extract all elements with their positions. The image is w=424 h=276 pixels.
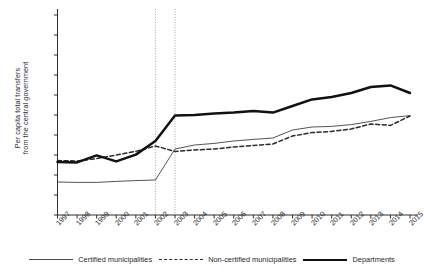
legend-item-1[interactable]: Non-certified municipalities [159,255,296,264]
legend-item-0[interactable]: Certified municipalities [29,255,152,264]
chart-legend: Certified municipalitiesNon-certified mu… [0,255,424,264]
legend-label: Departments [352,255,394,264]
series-line-1 [58,116,411,161]
legend-swatch-dashed-icon [159,259,203,260]
series-line-0 [58,116,411,183]
legend-swatch-thin-solid-icon [29,259,73,260]
legend-item-2[interactable]: Departments [303,255,394,264]
plot-area [0,0,424,276]
legend-swatch-thick-solid-icon [303,259,347,261]
legend-label: Non-certified municipalities [208,255,296,264]
chart-figure: Per capita total transfers from the cent… [0,0,424,276]
legend-label: Certified municipalities [78,255,152,264]
